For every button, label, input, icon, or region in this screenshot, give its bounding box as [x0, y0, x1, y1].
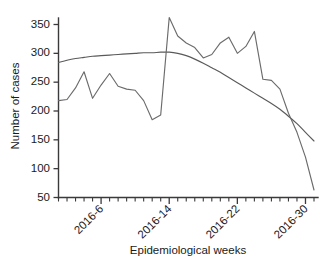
y-axis-tick-labels: 50100150200250300350	[31, 18, 50, 203]
line-chart: 50100150200250300350 2016-62016-142016-2…	[0, 0, 329, 271]
series-observed-line	[59, 18, 315, 190]
series-trend-line	[59, 52, 315, 141]
y-tick-label: 350	[31, 18, 50, 30]
y-tick-label: 50	[37, 191, 50, 203]
y-tick-label: 150	[31, 133, 50, 145]
y-tick-label: 250	[31, 75, 50, 87]
y-axis-title: Number of cases	[9, 62, 21, 149]
y-tick-label: 100	[31, 162, 50, 174]
x-axis-tick-labels: 2016-62016-142016-222016-30	[72, 202, 310, 241]
chart-figure: 50100150200250300350 2016-62016-142016-2…	[0, 0, 329, 271]
x-axis-title: Epidemiological weeks	[130, 244, 247, 256]
x-tick-label: 2016-22	[203, 202, 241, 240]
y-tick-label: 300	[31, 46, 50, 58]
y-axis-ticks	[54, 25, 59, 198]
x-tick-label: 2016-14	[135, 202, 174, 241]
x-tick-label: 2016-30	[272, 202, 310, 240]
x-tick-label: 2016-6	[72, 202, 106, 236]
y-tick-label: 200	[31, 104, 50, 116]
